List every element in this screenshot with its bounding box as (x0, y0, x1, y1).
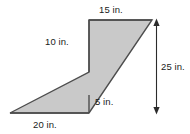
dimension-label-notch: 5 in. (95, 96, 113, 107)
dimension-label-left: 10 in. (45, 36, 69, 47)
zigzag-polygon-shape (10, 20, 152, 113)
geometry-figure: 15 in. 10 in. 25 in. 5 in. 20 in. (0, 0, 190, 134)
height-dimension-arrow (153, 19, 159, 115)
dimension-arrowhead-bottom (153, 107, 159, 115)
dimension-label-top: 15 in. (99, 4, 123, 15)
dimension-label-right: 25 in. (161, 61, 185, 72)
dimension-arrowhead-top (153, 19, 159, 27)
dimension-label-bottom: 20 in. (33, 119, 57, 130)
